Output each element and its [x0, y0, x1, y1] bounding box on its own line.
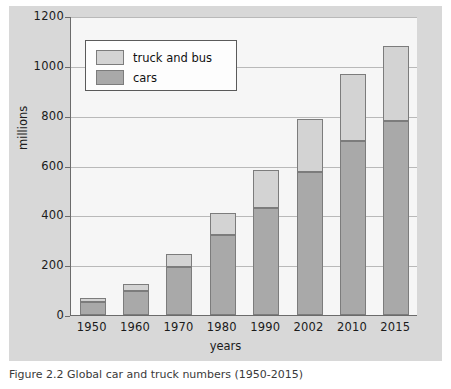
- y-tick-label: 600: [22, 159, 64, 173]
- bar-segment-truck-and-bus: [80, 298, 106, 302]
- y-tick-label: 0: [22, 308, 64, 322]
- gridline: [71, 17, 417, 18]
- bar-segment-cars: [340, 141, 366, 315]
- chart-legend: truck and bus cars: [85, 40, 237, 91]
- y-tick-label: 200: [22, 258, 64, 272]
- legend-swatch-truck-and-bus: [96, 50, 124, 65]
- y-tick-label: 1200: [22, 9, 64, 23]
- bar-1980: [210, 213, 236, 315]
- bar-segment-cars: [253, 208, 279, 315]
- y-tick-label: 1000: [22, 59, 64, 73]
- bar-segment-truck-and-bus: [383, 46, 409, 121]
- bar-segment-cars: [297, 172, 323, 315]
- bar-2015: [383, 46, 409, 315]
- bar-1990: [253, 170, 279, 315]
- y-tick-mark: [65, 316, 70, 317]
- bar-1950: [80, 298, 106, 315]
- bar-segment-cars: [166, 267, 192, 315]
- bar-2002: [297, 119, 323, 315]
- bar-segment-truck-and-bus: [253, 170, 279, 208]
- bar-segment-cars: [123, 291, 149, 315]
- bar-segment-truck-and-bus: [297, 119, 323, 171]
- bar-2010: [340, 74, 366, 315]
- legend-item-truck-and-bus: truck and bus: [96, 49, 212, 66]
- x-axis-label: years: [0, 339, 451, 353]
- bar-segment-truck-and-bus: [340, 74, 366, 141]
- legend-label-cars: cars: [133, 71, 157, 85]
- bar-segment-cars: [80, 302, 106, 315]
- legend-label-truck-and-bus: truck and bus: [133, 51, 212, 65]
- bar-segment-cars: [383, 121, 409, 315]
- y-tick-label: 400: [22, 208, 64, 222]
- bar-segment-truck-and-bus: [166, 254, 192, 267]
- figure-caption: Figure 2.2 Global car and truck numbers …: [9, 368, 442, 389]
- bar-1970: [166, 254, 192, 315]
- legend-item-cars: cars: [96, 69, 157, 86]
- bar-segment-truck-and-bus: [210, 213, 236, 235]
- bar-segment-truck-and-bus: [123, 284, 149, 291]
- y-tick-label: 800: [22, 109, 64, 123]
- legend-swatch-cars: [96, 70, 124, 85]
- x-tick-label: 2015: [370, 320, 420, 334]
- bar-1960: [123, 284, 149, 315]
- figure-container: millions 020040060080010001200 195019601…: [0, 0, 451, 389]
- bar-segment-cars: [210, 235, 236, 315]
